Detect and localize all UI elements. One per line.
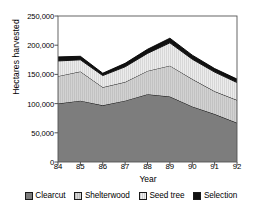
legend-swatch-icon xyxy=(25,192,33,200)
x-tick-label: 92 xyxy=(233,162,242,171)
legend-item-selection[interactable]: Selection xyxy=(193,191,237,200)
legend-item-clearcut[interactable]: Clearcut xyxy=(25,191,66,200)
legend-label: Shelterwood xyxy=(85,191,130,200)
x-tick-label: 90 xyxy=(188,162,197,171)
x-tick-label: 85 xyxy=(76,162,85,171)
x-axis-title: Year xyxy=(58,174,238,184)
legend-label: Selection xyxy=(204,191,237,200)
stacked-areas xyxy=(58,38,237,162)
x-tick-label: 88 xyxy=(143,162,152,171)
figure: Hectares harvested 050,000100,000150,000… xyxy=(0,0,262,210)
x-tick-label: 84 xyxy=(54,162,63,171)
x-tick-label: 89 xyxy=(166,162,175,171)
x-tick-label: 86 xyxy=(98,162,107,171)
legend-swatch-icon xyxy=(139,192,147,200)
legend-item-seed-tree[interactable]: Seed tree xyxy=(139,191,185,200)
legend-swatch-icon xyxy=(193,192,201,200)
legend-label: Seed tree xyxy=(149,191,184,200)
legend-label: Clearcut xyxy=(35,191,65,200)
legend-swatch-icon xyxy=(74,192,82,200)
legend-item-shelterwood[interactable]: Shelterwood xyxy=(74,191,129,200)
x-axis-tick-labels: 848586878889909192 xyxy=(0,162,262,174)
x-tick-label: 91 xyxy=(210,162,219,171)
chart-legend: ClearcutShelterwoodSeed treeSelection xyxy=(0,191,262,200)
x-tick-label: 87 xyxy=(121,162,130,171)
